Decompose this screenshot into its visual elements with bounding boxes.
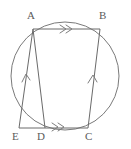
segment-ad [33, 29, 45, 128]
geometry-figure: A B C D E [0, 0, 131, 149]
figure-canvas [0, 0, 131, 149]
vertex-label-c: C [85, 131, 92, 142]
vertex-label-a: A [27, 10, 35, 21]
vertex-label-e: E [12, 131, 19, 142]
vertex-label-d: D [37, 131, 45, 142]
marker-single-chevron-cb [88, 75, 97, 83]
vertex-label-b: B [99, 10, 106, 21]
segment-cb [88, 29, 100, 128]
